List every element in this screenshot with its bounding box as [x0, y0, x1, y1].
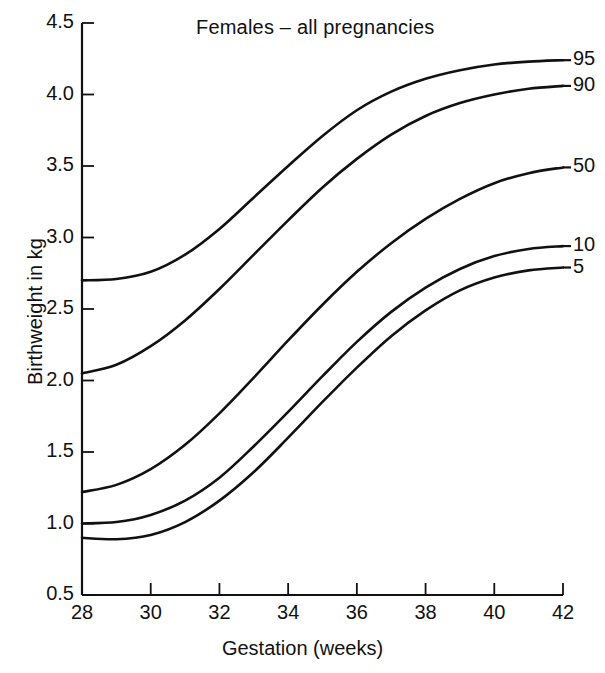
y-tick-label: 1.0 — [16, 511, 74, 534]
y-tick-label: 3.5 — [16, 153, 74, 176]
y-tick-label: 4.5 — [16, 10, 74, 33]
percentile-curves — [82, 60, 563, 539]
y-tick-label: 2.5 — [16, 296, 74, 319]
y-tick-label: 3.0 — [16, 225, 74, 248]
percentile-curve-90 — [82, 86, 563, 373]
x-tick-label: 40 — [464, 601, 524, 624]
x-tick-label: 30 — [121, 601, 181, 624]
series-label-90: 90 — [573, 73, 595, 96]
percentile-curve-10 — [82, 246, 563, 523]
series-label-leaders — [563, 60, 571, 267]
x-tick-label: 36 — [327, 601, 387, 624]
chart-title: Females – all pregnancies — [196, 16, 434, 39]
x-tick-label: 34 — [258, 601, 318, 624]
percentile-curve-5 — [82, 268, 563, 540]
y-tick-label: 4.0 — [16, 82, 74, 105]
series-label-95: 95 — [573, 47, 595, 70]
series-label-50: 50 — [573, 154, 595, 177]
x-axis-title: Gestation (weeks) — [0, 637, 605, 660]
axis-lines — [82, 23, 563, 595]
series-label-5: 5 — [573, 255, 584, 278]
plot-area — [0, 0, 605, 673]
y-tick-label: 1.5 — [16, 439, 74, 462]
series-label-10: 10 — [573, 233, 595, 256]
x-tick-label: 28 — [52, 601, 112, 624]
x-tick-label: 42 — [533, 601, 593, 624]
y-axis-ticks — [82, 23, 94, 595]
x-axis-ticks — [82, 583, 563, 595]
x-tick-label: 32 — [189, 601, 249, 624]
birthweight-percentile-chart: Females – all pregnancies Birthweight in… — [0, 0, 605, 673]
x-tick-label: 38 — [396, 601, 456, 624]
percentile-curve-95 — [82, 60, 563, 280]
y-tick-label: 2.0 — [16, 368, 74, 391]
percentile-curve-50 — [82, 167, 563, 492]
